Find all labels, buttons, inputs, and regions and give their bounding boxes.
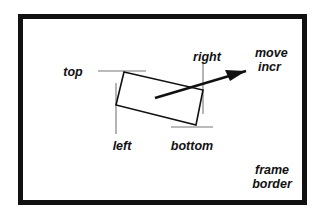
label-left: left	[113, 139, 133, 153]
label-top: top	[63, 65, 83, 79]
label-border: border	[252, 177, 293, 191]
label-bottom: bottom	[171, 139, 213, 153]
label-incr: incr	[258, 60, 282, 74]
label-move: move	[255, 46, 288, 60]
diagram-screenshot: top left right bottom move incr frame bo…	[0, 0, 327, 221]
label-frame: frame	[255, 163, 289, 177]
label-right: right	[193, 50, 222, 64]
frame-border-diagram: top left right bottom move incr frame bo…	[0, 0, 327, 221]
